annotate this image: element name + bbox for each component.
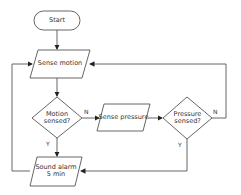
edge-pressure-yes	[81, 139, 187, 171]
motion-yes-label: Y	[46, 140, 50, 147]
motion-no-label: N	[84, 108, 89, 115]
edge-alarm-loop	[12, 64, 32, 171]
motion-sensed-label-2: sensed?	[32, 118, 82, 125]
start-label: Start	[34, 17, 80, 24]
pressure-no-label: N	[213, 108, 218, 115]
sound-alarm-label-2: 5 min	[30, 171, 82, 178]
pressure-yes-label: Y	[178, 141, 182, 148]
pressure-sensed-label-2: sensed?	[163, 118, 212, 125]
sense-motion-label: Sense motion	[30, 60, 90, 67]
sense-pressure-label: Sense pressure	[97, 114, 150, 121]
